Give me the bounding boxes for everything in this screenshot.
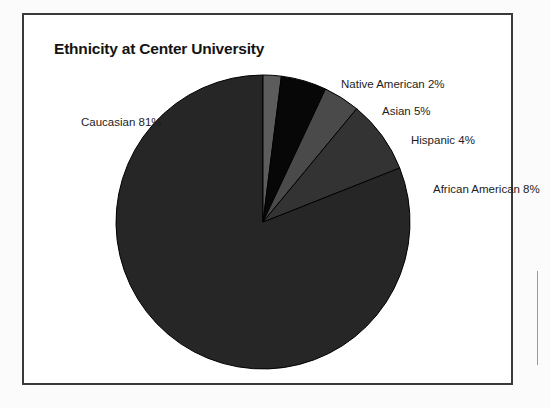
pie-label-african-american: African American 8% xyxy=(433,183,540,195)
pie-label-native-american: Native American 2% xyxy=(341,78,445,90)
figure-frame: Ethnicity at Center University Caucasian… xyxy=(22,13,513,385)
pie-label-caucasian: Caucasian 81% xyxy=(81,116,162,128)
pie-chart xyxy=(24,15,515,387)
scan-edge-artifact xyxy=(537,271,538,365)
pie-label-asian: Asian 5% xyxy=(382,105,431,117)
pie-label-hispanic: Hispanic 4% xyxy=(411,134,475,146)
